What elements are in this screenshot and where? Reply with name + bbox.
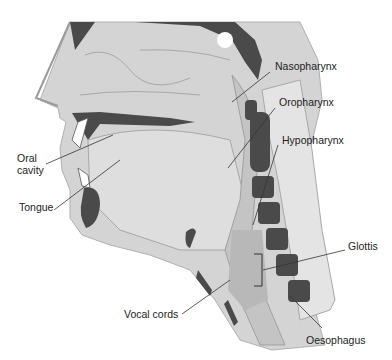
label-nasopharynx: Nasopharynx xyxy=(275,60,337,72)
label-glottis: Glottis xyxy=(348,240,378,252)
label-vocal-cords: Vocal cords xyxy=(124,308,178,320)
label-tongue: Tongue xyxy=(19,201,53,213)
label-oropharynx: Oropharynx xyxy=(279,96,334,108)
anatomy-diagram xyxy=(0,0,392,360)
label-oesophagus: Oesophagus xyxy=(306,334,366,346)
label-oral-cavity: Oral cavity xyxy=(17,152,44,176)
label-hypopharynx: Hypopharynx xyxy=(282,134,344,146)
sinus-void xyxy=(217,32,233,48)
